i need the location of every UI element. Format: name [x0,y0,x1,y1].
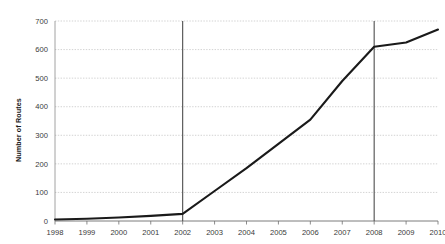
y-tick-label: 100 [35,188,48,197]
x-tick-label: 2010 [430,228,445,237]
x-tick-label: 2004 [238,228,255,237]
chart-background [0,0,445,244]
x-tick-label: 2008 [366,228,383,237]
y-tick-label: 400 [35,102,48,111]
x-tick-label: 1998 [47,228,64,237]
x-tick-label: 2009 [398,228,415,237]
x-tick-label: 2007 [334,228,351,237]
x-tick-label: 2001 [142,228,159,237]
x-tick-label: 1999 [78,228,95,237]
x-tick-label: 2003 [206,228,223,237]
y-tick-label: 0 [44,217,48,226]
y-tick-label: 600 [35,45,48,54]
x-tick-label: 2005 [270,228,287,237]
y-tick-label: 500 [35,74,48,83]
y-tick-label: 300 [35,131,48,140]
y-tick-label: 700 [35,17,48,26]
line-chart: 0100200300400500600700 19981999200020012… [0,0,445,244]
x-tick-label: 2006 [302,228,319,237]
x-tick-label: 2002 [174,228,191,237]
x-tick-label: 2000 [110,228,127,237]
chart-canvas: 0100200300400500600700 19981999200020012… [0,0,445,244]
y-axis-label: Number of Routes [14,98,23,162]
y-tick-label: 200 [35,160,48,169]
